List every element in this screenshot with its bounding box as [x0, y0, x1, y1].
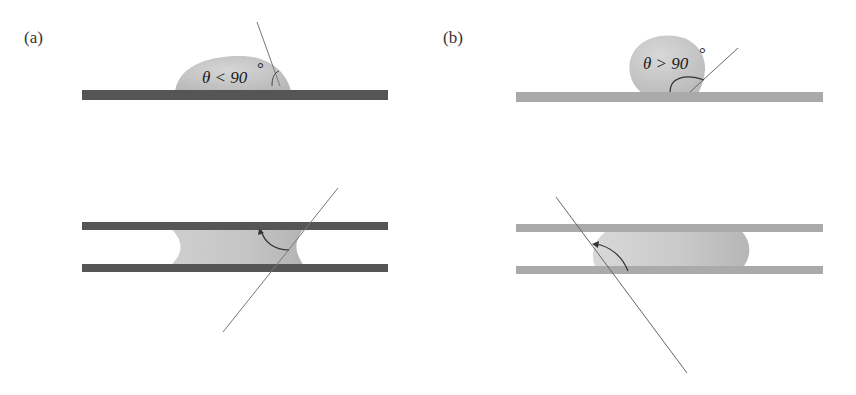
upper-plate-a [82, 222, 388, 230]
panel-a-capillary-group [82, 188, 388, 332]
tangent-line-capillary-b [556, 197, 687, 373]
lower-plate-b [516, 266, 823, 274]
panel-b-droplet-group: θ > 90 ° [516, 35, 823, 102]
upper-plate-b [516, 224, 823, 232]
surface-b [516, 92, 823, 102]
wetting-diagram: θ < 90 ° θ > 90 ° [0, 0, 856, 395]
liquid-bridge-b [593, 230, 749, 268]
angle-label-a: θ < 90 [202, 68, 248, 87]
degree-symbol-b: ° [699, 44, 706, 63]
panel-a-droplet-group: θ < 90 ° [82, 22, 388, 100]
angle-label-b: θ > 90 [643, 54, 689, 73]
surface-a [82, 90, 388, 100]
degree-symbol-a: ° [257, 59, 264, 78]
lower-plate-a [82, 264, 388, 272]
panel-b-capillary-group [516, 197, 823, 373]
liquid-bridge-a [170, 228, 304, 266]
